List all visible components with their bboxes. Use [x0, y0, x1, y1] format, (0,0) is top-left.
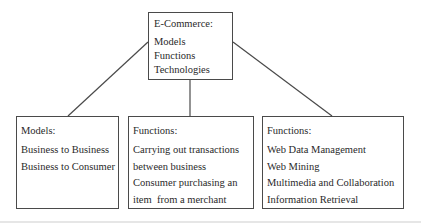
root-node-title: E-Commerce: [154, 17, 232, 31]
node-item: Business to Business [21, 142, 118, 159]
edge-root-to-functions-technologies [233, 42, 332, 116]
root-node-item: Technologies [154, 63, 232, 77]
node-item: Business to Consumer [21, 159, 118, 176]
node-item: Consumer purchasing an [133, 175, 253, 192]
bottom-divider [0, 221, 421, 223]
node-item: between business [133, 159, 253, 176]
node-item: Carrying out transactions [133, 142, 253, 159]
root-node-ecommerce: E-Commerce: Models Functions Technologie… [148, 12, 233, 80]
node-item: Web Data Management [267, 142, 403, 159]
child-node-functions-technologies: Functions: Web Data Management Web Minin… [262, 116, 404, 209]
edge-root-to-models [68, 42, 148, 116]
node-item: Multimedia and Collaboration [267, 175, 403, 192]
node-item: Information Retrieval [267, 192, 403, 209]
node-title: Models: [21, 124, 118, 138]
root-node-item: Models [154, 35, 232, 49]
node-title: Functions: [133, 124, 253, 138]
child-node-models: Models: Business to Business Business to… [16, 116, 119, 209]
child-node-functions-transactions: Functions: Carrying out transactions bet… [128, 116, 254, 209]
root-node-item: Functions [154, 49, 232, 63]
node-title: Functions: [267, 124, 403, 138]
node-item: Web Mining [267, 159, 403, 176]
node-item: item from a merchant [133, 192, 253, 209]
